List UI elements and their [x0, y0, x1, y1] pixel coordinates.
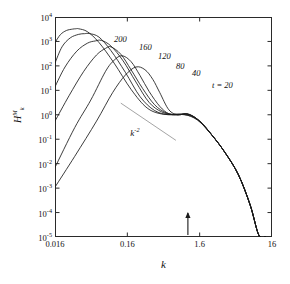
- data-curve: [55, 47, 265, 237]
- y-tick-label: 104: [40, 12, 52, 22]
- x-tick-label: 0.016: [45, 240, 64, 249]
- y-tick-label: 10-3: [38, 183, 52, 193]
- data-curve: [55, 33, 265, 237]
- y-tick-label: 102: [40, 61, 52, 71]
- slope-annotation-label: k-2: [130, 127, 139, 138]
- x-tick-label: 0.16: [120, 240, 135, 249]
- curve-label: 160: [139, 43, 152, 52]
- plot-area: 2001601208040t = 20 k-2: [55, 17, 272, 237]
- y-tick-label: 101: [40, 85, 52, 95]
- curve-label: 80: [176, 62, 185, 71]
- curve-label: 40: [192, 69, 201, 78]
- data-curve: [55, 40, 265, 237]
- x-axis-arrow-head: [185, 212, 190, 218]
- curve-label: 200: [114, 35, 127, 44]
- y-tick-label: 10-1: [38, 134, 52, 144]
- x-axis-title: k: [55, 258, 272, 270]
- y-tick-label: 103: [40, 36, 52, 46]
- x-tick-label: 16: [268, 240, 277, 249]
- y-axis-title: HMk: [11, 98, 25, 132]
- chart-canvas: [55, 17, 272, 237]
- y-tick-label: 10-2: [38, 158, 52, 168]
- data-curve: [55, 67, 265, 237]
- curve-label: 120: [158, 52, 171, 61]
- x-tick-label: 1.6: [194, 240, 205, 249]
- curve-label: t = 20: [212, 81, 233, 90]
- x-axis-tick-labels: 0.0160.161.616: [55, 240, 272, 254]
- y-tick-label: 100: [40, 110, 52, 120]
- y-axis-tick-labels: 10-510-410-310-210-1100101102103104: [0, 17, 52, 237]
- chart-figure: 10-510-410-310-210-1100101102103104 HMk …: [0, 0, 290, 284]
- y-tick-label: 10-4: [38, 207, 52, 217]
- data-curve: [55, 56, 265, 237]
